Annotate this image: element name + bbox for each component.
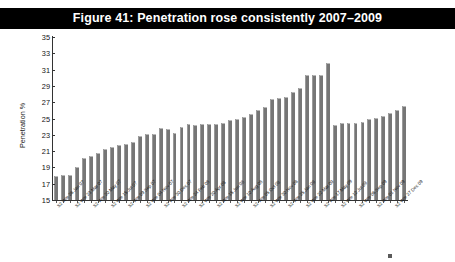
y-tick-mark (52, 135, 55, 136)
x-tick-mark (328, 201, 329, 203)
x-tick-mark (342, 201, 343, 203)
x-tick-mark (286, 201, 287, 203)
x-tick-mark (140, 201, 141, 203)
x-tick-mark (168, 201, 169, 203)
x-tick-mark (105, 201, 106, 203)
x-tick-mark (293, 201, 294, 203)
y-tick-mark (52, 167, 55, 168)
x-tick-mark (390, 201, 391, 203)
y-tick-mark (52, 200, 55, 201)
y-tick-mark (52, 151, 55, 152)
x-tick-mark (174, 201, 175, 203)
x-tick-mark (91, 201, 92, 203)
x-tick-mark (133, 201, 134, 203)
x-tick-mark (314, 201, 315, 203)
x-tick-mark (300, 201, 301, 203)
x-tick-mark (56, 201, 57, 203)
x-tick-mark (279, 201, 280, 203)
x-tick-mark (404, 201, 405, 203)
x-tick-mark (348, 201, 349, 203)
chart-area: Penetration % 1517192123252729313335 S2 … (0, 29, 455, 262)
y-tick-mark (52, 70, 55, 71)
x-tick-mark (376, 201, 377, 203)
x-tick-mark (98, 201, 99, 203)
x-tick-mark (383, 201, 384, 203)
y-tick-mark (52, 37, 55, 38)
x-tick-mark (369, 201, 370, 203)
x-tick-mark (244, 201, 245, 203)
x-tick-mark (321, 201, 322, 203)
figure-title: Figure 41: Penetration rose consistently… (0, 8, 455, 29)
x-tick-mark (258, 201, 259, 203)
x-tick-mark (77, 201, 78, 203)
x-tick-mark (112, 201, 113, 203)
x-tick-mark (307, 201, 308, 203)
x-tick-mark (181, 201, 182, 203)
x-tick-mark (355, 201, 356, 203)
y-tick-mark (52, 102, 55, 103)
y-tick-mark (52, 184, 55, 185)
x-tick-mark (362, 201, 363, 203)
x-tick-mark (70, 201, 71, 203)
x-tick-mark (195, 201, 196, 203)
x-tick-mark (251, 201, 252, 203)
x-tick-mark (63, 201, 64, 203)
x-tick-mark (209, 201, 210, 203)
x-tick-mark (147, 201, 148, 203)
y-tick-mark (52, 86, 55, 87)
x-tick-mark (126, 201, 127, 203)
x-tick-mark (335, 201, 336, 203)
x-tick-mark (237, 201, 238, 203)
x-tick-mark (230, 201, 231, 203)
x-tick-mark (223, 201, 224, 203)
x-tick-mark (84, 201, 85, 203)
x-tick-mark (161, 201, 162, 203)
figure-page: Figure 41: Penetration rose consistently… (0, 0, 455, 262)
x-tick-mark (265, 201, 266, 203)
x-tick-mark (216, 201, 217, 203)
x-tick-mark (154, 201, 155, 203)
x-tick-mark (119, 201, 120, 203)
footer-marker (388, 254, 392, 258)
y-tick-mark (52, 119, 55, 120)
x-tick-mark (272, 201, 273, 203)
x-tick-mark (188, 201, 189, 203)
y-tick-mark (52, 53, 55, 54)
x-axis-tick-labels: S2 W/e 26 Jan 07S2 W/e 23 Mar 07S2 W/e 2… (0, 29, 455, 262)
x-tick-mark (202, 201, 203, 203)
x-tick-mark (397, 201, 398, 203)
